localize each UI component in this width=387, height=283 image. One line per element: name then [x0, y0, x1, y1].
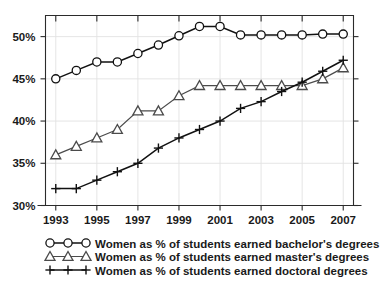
x-axis-tick-label: 2005 — [289, 214, 315, 226]
line-chart: 30%35%40%45%50%1993199519971999200120032… — [0, 0, 387, 283]
y-axis-tick-label: 50% — [12, 31, 35, 43]
data-point-marker-circle — [236, 31, 244, 39]
data-point-marker-circle — [195, 22, 203, 30]
series-circle — [52, 22, 348, 83]
y-axis-tick-label: 45% — [12, 73, 35, 85]
legend-label: Women as % of students earned doctoral d… — [95, 265, 368, 277]
legend-item[interactable]: Women as % of students earned bachelor's… — [46, 238, 379, 250]
y-axis-tick-label: 40% — [12, 115, 35, 127]
legend-item[interactable]: Women as % of students earned master's d… — [45, 251, 369, 263]
x-axis-tick-label: 2007 — [330, 214, 356, 226]
data-point-marker-circle — [278, 31, 286, 39]
data-point-marker-circle — [216, 22, 224, 30]
legend-item[interactable]: Women as % of students earned doctoral d… — [45, 265, 367, 277]
series-triangle — [51, 63, 348, 159]
legend-label: Women as % of students earned bachelor's… — [95, 238, 379, 250]
data-point-marker-circle — [175, 32, 183, 40]
gridlines — [46, 16, 354, 206]
data-point-marker-circle — [82, 239, 90, 247]
x-axis-tick-label: 1999 — [166, 214, 192, 226]
data-point-marker-circle — [64, 239, 72, 247]
series-plus — [51, 56, 348, 194]
x-axis-tick-label: 2003 — [248, 214, 274, 226]
axes — [38, 16, 362, 211]
data-point-marker-circle — [298, 31, 306, 39]
legend: Women as % of students earned bachelor's… — [45, 238, 379, 277]
chart-title-clipped — [0, 0, 387, 9]
data-point-marker-circle — [339, 30, 347, 38]
plot-frame — [46, 16, 354, 206]
y-axis-tick-label: 30% — [12, 200, 35, 212]
data-point-marker-triangle — [71, 141, 81, 150]
legend-label: Women as % of students earned master's d… — [95, 251, 369, 263]
y-axis-tick-label: 35% — [12, 157, 35, 169]
data-point-marker-triangle — [51, 150, 61, 159]
data-point-marker-circle — [154, 41, 162, 49]
data-point-marker-circle — [134, 49, 142, 57]
data-point-marker-circle — [52, 75, 60, 83]
data-point-marker-circle — [319, 30, 327, 38]
x-axis-tick-label: 1997 — [125, 214, 151, 226]
data-point-marker-circle — [46, 239, 54, 247]
data-point-marker-circle — [72, 66, 80, 74]
data-point-marker-circle — [93, 58, 101, 66]
tick-labels: 30%35%40%45%50%1993199519971999200120032… — [12, 31, 356, 226]
x-axis-tick-label: 1993 — [43, 214, 69, 226]
data-point-marker-circle — [257, 31, 265, 39]
data-point-marker-triangle — [92, 133, 102, 142]
x-axis-tick-label: 2001 — [207, 214, 233, 226]
plot-series-group — [51, 22, 348, 193]
data-point-marker-circle — [113, 58, 121, 66]
chart-figure: 30%35%40%45%50%1993199519971999200120032… — [0, 0, 387, 283]
x-axis-tick-label: 1995 — [84, 214, 110, 226]
data-point-marker-triangle — [174, 91, 184, 100]
